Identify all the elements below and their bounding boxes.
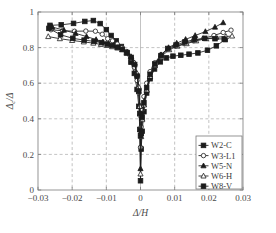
y-tick-label: 0 (30, 185, 35, 195)
data-point-marker (153, 62, 158, 67)
legend-entries[interactable]: W2-CW3-L1W5-NW6-HW8-V (199, 140, 236, 191)
legend-label: W5-N (211, 161, 232, 171)
data-point-marker (201, 184, 206, 189)
data-point-marker (138, 178, 143, 183)
y-axis-title-text: Δc/Δ (5, 92, 16, 110)
data-point-marker (58, 32, 63, 37)
data-point-marker (104, 27, 109, 32)
legend-label: W6-H (211, 171, 232, 181)
legend-label: W8-V (211, 181, 233, 191)
data-point-marker (129, 55, 134, 60)
data-point-marker (174, 43, 179, 48)
data-point-marker (164, 56, 169, 61)
data-point-marker (91, 18, 96, 23)
data-point-marker (71, 21, 76, 26)
y-axis-denominator: Δ (5, 92, 15, 99)
data-point-marker (214, 44, 219, 49)
x-axis-title: Δ/H (132, 208, 149, 218)
data-point-marker (196, 51, 201, 56)
data-point-marker (222, 37, 227, 42)
data-point-marker (135, 74, 140, 79)
legend-label: W2-C (211, 140, 232, 150)
data-point-marker (140, 115, 145, 120)
y-tick-label: 0.4 (23, 114, 35, 124)
data-point-marker (98, 21, 103, 26)
data-point-marker (71, 36, 76, 41)
y-tick-label: 1 (30, 7, 35, 17)
x-tick-label: 0.01 (167, 193, 183, 203)
data-point-marker (205, 48, 210, 53)
data-point-marker (110, 43, 115, 48)
x-tick-label: 0.02 (201, 193, 217, 203)
data-point-marker (132, 62, 137, 67)
data-point-marker (183, 40, 188, 45)
data-point-marker (201, 143, 206, 148)
data-point-marker (105, 42, 110, 47)
data-point-marker (144, 85, 149, 90)
data-point-marker (148, 72, 153, 77)
data-point-marker (221, 30, 225, 34)
data-point-marker (139, 131, 144, 136)
x-tick-label: 0.03 (235, 193, 251, 203)
data-point-marker (100, 32, 104, 36)
y-axis-title: Δc/Δ (5, 92, 16, 110)
y-tick-label: 0.6 (23, 78, 35, 88)
y-tick-label: 0.2 (23, 150, 34, 160)
data-point-marker (82, 38, 87, 43)
data-point-marker (110, 39, 114, 43)
data-point-marker (142, 100, 147, 105)
x-axis-title-text: Δ/H (132, 208, 149, 218)
data-point-marker (106, 37, 110, 41)
data-point-marker (229, 28, 233, 32)
x-tick-label: −0.01 (96, 193, 117, 203)
data-point-marker (213, 36, 218, 41)
data-point-marker (159, 53, 164, 58)
legend-label: W3-L1 (211, 151, 236, 161)
y-tick-label: 0.8 (23, 43, 35, 53)
data-point-marker (47, 26, 52, 31)
data-point-marker (115, 45, 120, 50)
data-point-marker (171, 54, 176, 59)
data-point-marker (179, 53, 184, 58)
data-point-marker (136, 89, 141, 94)
data-point-marker (192, 37, 197, 42)
data-point-marker (187, 52, 192, 57)
data-point-marker (99, 40, 104, 45)
data-point-marker (166, 46, 171, 51)
data-point-marker (202, 36, 207, 41)
data-point-marker (92, 39, 97, 44)
legend[interactable]: W2-CW3-L1W5-NW6-HW8-V (196, 136, 242, 191)
data-point-marker (125, 50, 130, 55)
data-point-marker (93, 29, 97, 33)
x-tick-label: −0.02 (62, 193, 83, 203)
x-tick-label: 0 (138, 193, 143, 203)
data-point-marker (84, 29, 88, 33)
data-point-marker (120, 47, 125, 52)
chart-canvas: −0.03−0.02−0.0100.010.020.0300.20.40.60.… (0, 0, 276, 233)
data-point-marker (83, 19, 88, 24)
chart-figure: −0.03−0.02−0.0100.010.020.0300.20.40.60.… (0, 0, 276, 233)
data-point-marker (201, 153, 205, 157)
data-point-marker (59, 23, 64, 28)
